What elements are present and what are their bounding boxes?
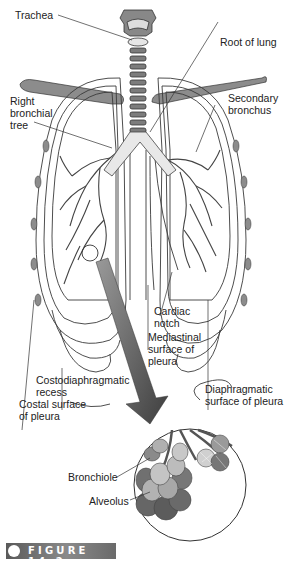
bronchial-trees xyxy=(60,136,222,284)
label-line: surface of pleura xyxy=(205,395,283,407)
label-root-of-lung: Root of lung xyxy=(220,36,277,48)
label-costal-surface: Costal surface of pleura xyxy=(19,398,86,422)
figure-bullet-icon xyxy=(8,545,20,557)
lung-diagram xyxy=(0,0,289,562)
label-trachea: Trachea xyxy=(15,9,53,21)
label-line: of pleura xyxy=(19,410,86,422)
label-line: surface of xyxy=(148,343,201,355)
label-line: Right xyxy=(10,95,53,107)
figure-label-bar: FIGURE 14-2 xyxy=(6,543,116,559)
label-line: Costal surface xyxy=(19,398,86,410)
label-line: pleura xyxy=(148,355,201,367)
label-bronchiole: Bronchiole xyxy=(68,471,118,483)
label-line: Mediastinal xyxy=(148,331,201,343)
label-line: recess xyxy=(36,386,129,398)
label-line: bronchus xyxy=(228,104,278,116)
label-line: Secondary xyxy=(228,92,278,104)
label-line: Cardiac xyxy=(154,305,190,317)
trachea-illustration xyxy=(120,10,156,133)
label-diaphragmatic-surface: Diaphragmatic surface of pleura xyxy=(205,383,283,407)
label-line: bronchial xyxy=(10,107,53,119)
label-secondary-bronchus: Secondary bronchus xyxy=(228,92,278,116)
figure-label: FIGURE 14-2 xyxy=(28,545,116,562)
label-line: Diaphragmatic xyxy=(205,383,283,395)
label-line: tree xyxy=(10,119,53,131)
alveoli-inset xyxy=(134,429,246,541)
label-mediastinal-surface: Mediastinal surface of pleura xyxy=(148,331,201,367)
label-cardiac-notch: Cardiac notch xyxy=(154,305,190,329)
label-right-bronchial-tree: Right bronchial tree xyxy=(10,95,53,131)
label-costodiaphragmatic-recess: Costodiaphragmatic recess xyxy=(36,374,129,398)
magnify-source-circle xyxy=(82,245,98,261)
label-line: Costodiaphragmatic xyxy=(36,374,129,386)
label-line: notch xyxy=(154,317,190,329)
label-alveolus: Alveolus xyxy=(89,495,129,507)
